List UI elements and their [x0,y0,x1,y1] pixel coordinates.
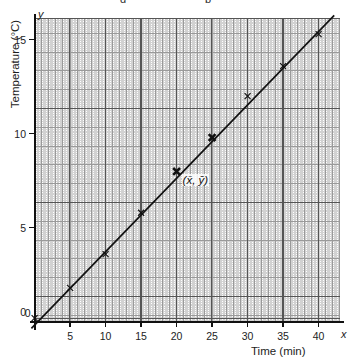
x-axis-variable-letter: x [341,328,347,340]
y-axis-title: Temperature (°C) [9,0,21,149]
data-point-marker [32,315,38,321]
data-layer [0,0,353,363]
line-of-best-fit [31,15,334,328]
data-point-marker-mean [209,134,216,141]
data-point-marker-mean [173,168,180,175]
mean-point-annotation: (x̄, ȳ) [182,174,210,186]
data-point-marker [67,285,73,291]
x-axis-title: Time (min) [251,345,306,357]
data-point-marker [245,93,251,99]
chart-overlay: 0510152025303540051015(x̄, ȳ) [0,0,353,363]
y-axis-variable-letter: y [38,8,44,20]
